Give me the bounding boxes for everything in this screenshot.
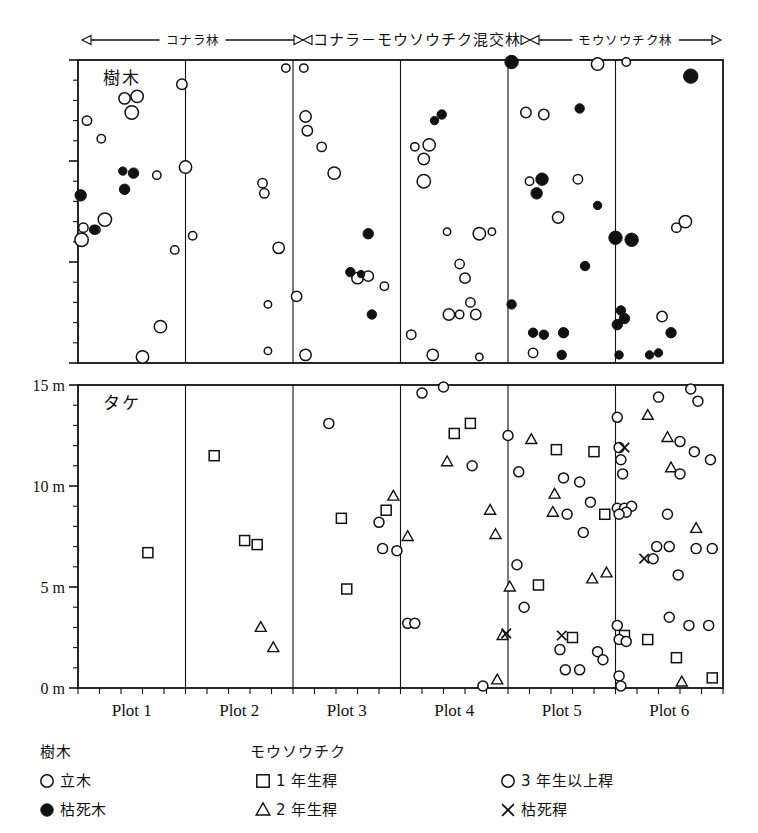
tree-point-1-1 — [119, 167, 127, 175]
bamboo-point-2-45 — [662, 509, 672, 519]
tree-point-0-52 — [552, 212, 563, 223]
plot-label-6: Plot 6 — [649, 701, 689, 720]
tree-point-0-57 — [679, 215, 691, 227]
tree-point-0-38 — [488, 228, 495, 235]
legend-label-3-1: 3 年生以上稈 — [521, 772, 614, 790]
tree-point-0-13 — [171, 246, 179, 254]
tree-point-0-4 — [177, 79, 187, 89]
tree-point-0-5 — [97, 135, 105, 143]
bamboo-panel-label: タケ — [103, 393, 141, 413]
bamboo-point-2-37 — [616, 681, 626, 691]
bamboo-point-2-17 — [562, 509, 572, 519]
tree-point-1-23 — [580, 261, 589, 270]
bamboo-point-2-38 — [654, 392, 664, 402]
tree-point-0-21 — [328, 167, 340, 179]
bamboo-point-2-40 — [693, 396, 703, 406]
tree-point-0-48 — [521, 107, 531, 117]
tree-point-0-7 — [153, 171, 161, 179]
bamboo-point-2-42 — [689, 447, 699, 457]
bamboo-point-2-33 — [612, 620, 622, 630]
tree-point-0-11 — [98, 213, 111, 226]
tree-point-1-30 — [645, 351, 653, 359]
bamboo-point-2-41 — [675, 437, 685, 447]
tree-point-0-36 — [443, 228, 450, 235]
tree-point-0-51 — [573, 174, 582, 183]
plot-label-5: Plot 5 — [542, 701, 582, 720]
bamboo-point-0-15 — [643, 635, 653, 645]
bamboo-point-0-9 — [551, 445, 561, 455]
tree-point-1-10 — [430, 116, 438, 124]
tree-point-1-21 — [609, 231, 622, 244]
bamboo-point-2-15 — [575, 477, 585, 487]
bamboo-point-2-54 — [704, 620, 714, 630]
bamboo-point-0-4 — [336, 513, 346, 523]
bamboo-point-0-2 — [240, 536, 250, 546]
bamboo-point-2-35 — [621, 637, 631, 647]
bamboo-point-0-6 — [342, 584, 352, 594]
tree-point-0-58 — [657, 311, 667, 321]
bamboo-point-2-10 — [514, 467, 524, 477]
tree-point-0-42 — [443, 309, 454, 320]
tree-point-1-13 — [531, 188, 542, 199]
legend-group-title-2: モウソウチク — [250, 743, 346, 761]
bamboo-point-0-5 — [381, 505, 391, 515]
tree-point-1-14 — [507, 300, 516, 309]
tree-point-0-20 — [317, 142, 326, 151]
bamboo-point-2-11 — [512, 560, 522, 570]
bamboo-point-0-0 — [143, 548, 153, 558]
arrow-right-2 — [521, 35, 530, 44]
tree-point-1-8 — [367, 310, 376, 319]
legend-group-title-1: 樹木 — [40, 743, 72, 761]
tree-panel-label: 樹木 — [103, 68, 141, 88]
tree-point-1-12 — [536, 173, 548, 185]
bamboo-point-2-39 — [686, 384, 696, 394]
tree-point-1-20 — [593, 201, 601, 209]
tree-point-1-29 — [666, 328, 676, 338]
arrow-right-1 — [294, 35, 303, 44]
legend-marker-filled-circle-0-1 — [41, 804, 53, 816]
bamboo-point-2-7 — [439, 382, 449, 392]
legend-label-2-1: 1 年生稈 — [276, 772, 338, 790]
legend-label-3-2: 枯死稈 — [521, 801, 568, 819]
tree-point-0-24 — [273, 242, 284, 253]
tree-point-1-3 — [119, 184, 129, 194]
bamboo-point-2-43 — [705, 455, 715, 465]
bamboo-point-0-12 — [600, 509, 610, 519]
plot-label-4: Plot 4 — [434, 701, 475, 720]
tree-point-0-33 — [423, 139, 435, 151]
tree-point-0-16 — [282, 64, 290, 72]
bamboo-point-2-50 — [648, 554, 658, 564]
bamboo-point-2-25 — [614, 443, 624, 453]
tree-point-0-15 — [136, 351, 148, 363]
tree-point-0-40 — [460, 273, 470, 283]
tree-point-0-8 — [79, 223, 88, 232]
tree-point-0-19 — [302, 126, 312, 136]
arrow-left-1 — [82, 35, 91, 44]
tree-point-0-47 — [476, 353, 483, 360]
bamboo-point-2-48 — [691, 544, 701, 554]
tree-point-1-28 — [684, 69, 698, 83]
bamboo-point-0-3 — [252, 540, 262, 550]
bamboo-point-2-36 — [614, 671, 624, 681]
bamboo-point-2-52 — [664, 612, 674, 622]
y-axis-label-5: 5 m — [41, 579, 66, 596]
bamboo-point-0-1 — [209, 451, 219, 461]
bamboo-point-2-53 — [684, 620, 694, 630]
bamboo-point-0-13 — [568, 633, 578, 643]
tree-point-0-23 — [260, 189, 269, 198]
tree-point-0-34 — [418, 153, 429, 164]
tree-point-0-12 — [188, 232, 196, 240]
tree-point-1-11 — [505, 55, 518, 68]
bamboo-point-0-11 — [589, 447, 599, 457]
tree-point-0-43 — [455, 310, 463, 318]
tree-point-0-22 — [258, 179, 267, 188]
bamboo-point-2-47 — [664, 542, 674, 552]
bamboo-point-2-8 — [467, 461, 477, 471]
tree-point-0-55 — [622, 58, 630, 66]
bamboo-point-0-7 — [449, 428, 459, 438]
tree-point-0-32 — [411, 143, 419, 151]
arrow-left-3 — [530, 35, 539, 44]
bamboo-point-2-3 — [392, 546, 402, 556]
tree-point-1-17 — [558, 328, 568, 338]
bamboo-point-2-0 — [324, 418, 334, 428]
